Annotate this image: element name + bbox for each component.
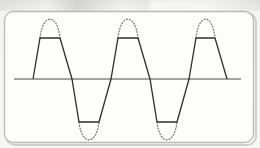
- plot-frame: [5, 12, 254, 143]
- waveform-figure: [0, 0, 260, 148]
- waveform-plot: [0, 0, 260, 148]
